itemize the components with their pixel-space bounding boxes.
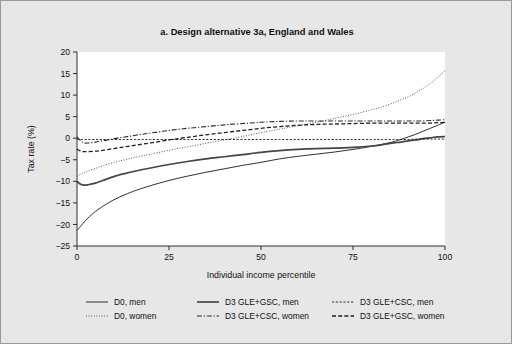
figure-container: a. Design alternative 3a, England and Wa… — [0, 0, 512, 344]
x-tick-label: 100 — [438, 252, 453, 262]
y-tick-layer: 20151050−5−10−15−20−25 — [55, 47, 77, 251]
y-tick-label: 5 — [65, 112, 70, 122]
chart-title: a. Design alternative 3a, England and Wa… — [160, 27, 353, 37]
series-line-d3_gle_csc_men — [77, 139, 445, 140]
legend-label-d3_gle_csc_men: D3 GLE+CSC, men — [360, 297, 434, 307]
legend-label-d0_women: D0, women — [114, 311, 157, 321]
y-tick-label: 15 — [60, 69, 70, 79]
y-tick-label: 0 — [65, 133, 70, 143]
legend-label-d3_gle_gsc_women: D3 GLE+GSC, women — [360, 311, 445, 321]
x-axis-label: Individual income percentile — [207, 270, 316, 280]
y-tick-label: −5 — [60, 155, 70, 165]
legend-label-d3_gle_csc_women: D3 GLE+CSC, women — [225, 311, 309, 321]
x-tick-label: 50 — [256, 252, 266, 262]
y-tick-label: −10 — [55, 176, 70, 186]
tax-rate-line-chart: a. Design alternative 3a, England and Wa… — [1, 1, 512, 344]
y-tick-label: −25 — [55, 241, 70, 251]
y-tick-label: 10 — [60, 90, 70, 100]
legend-label-d3_gle_gsc_men: D3 GLE+GSC, men — [225, 297, 299, 307]
plot-area-background — [77, 52, 445, 246]
legend-label-d0_men: D0, men — [114, 297, 146, 307]
y-tick-label: 20 — [60, 47, 70, 57]
y-tick-label: −15 — [55, 198, 70, 208]
x-tick-label: 25 — [164, 252, 174, 262]
x-tick-label: 75 — [348, 252, 358, 262]
x-tick-layer: 0255075100 — [75, 246, 453, 262]
chart-legend: D0, menD3 GLE+GSC, menD3 GLE+CSC, menD0,… — [86, 297, 445, 321]
y-axis-label: Tax rate (%) — [26, 125, 36, 172]
y-tick-label: −20 — [55, 220, 70, 230]
x-tick-label: 0 — [75, 252, 80, 262]
